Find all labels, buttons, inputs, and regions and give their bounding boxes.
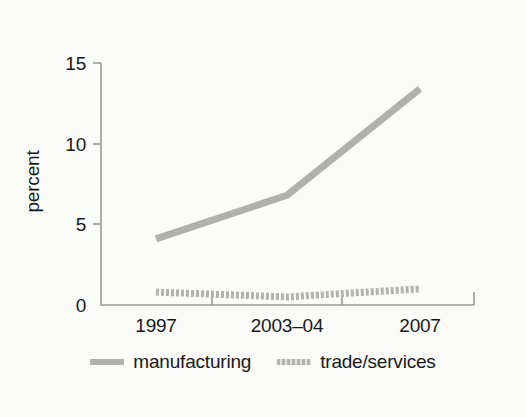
- x-tick-label-2007: 2007: [360, 316, 480, 335]
- chart-legend: manufacturing trade/services: [0, 352, 526, 371]
- dotted-line-swatch-icon: [277, 359, 311, 365]
- legend-label-trade-services: trade/services: [320, 352, 435, 371]
- y-axis-ticks: [93, 63, 101, 224]
- x-tick-label-1997: 1997: [96, 316, 216, 335]
- y-tick-label-10: 10: [42, 135, 86, 154]
- x-tick-label-2003-04: 2003–04: [227, 316, 347, 335]
- y-tick-label-15: 15: [42, 54, 86, 73]
- legend-item-manufacturing: manufacturing: [90, 352, 251, 371]
- legend-item-trade-services: trade/services: [277, 352, 435, 371]
- series-line-manufacturing: [156, 89, 420, 239]
- chart-figure: 15 10 5 0 percent 1997 2003–04 2007 manu…: [0, 0, 526, 417]
- y-tick-label-0: 0: [42, 296, 86, 315]
- y-tick-label-5: 5: [42, 215, 86, 234]
- solid-line-swatch-icon: [90, 359, 124, 365]
- axis-lines: [101, 63, 474, 305]
- series-line-trade-services: [156, 289, 420, 297]
- legend-label-manufacturing: manufacturing: [133, 352, 251, 371]
- y-axis-title: percent: [23, 122, 42, 242]
